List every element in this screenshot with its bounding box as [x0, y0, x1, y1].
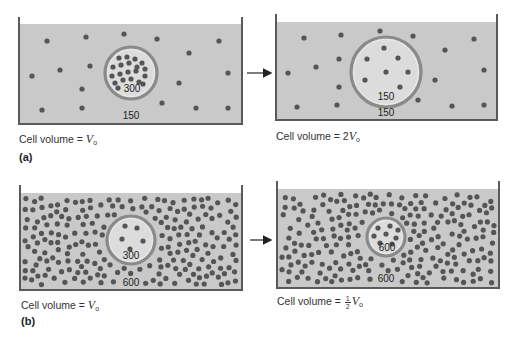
solute-particle [452, 255, 457, 260]
solute-particle [55, 221, 60, 226]
solute-particle [133, 68, 138, 73]
solute-particle [482, 203, 487, 208]
solute-particle [118, 62, 123, 67]
solute-particle [450, 201, 455, 206]
solute-particle [327, 266, 332, 271]
beaker: 600600 [277, 181, 499, 288]
solute-particle [399, 195, 404, 200]
solute-particle [324, 243, 329, 248]
fraction-denominator: 2 [345, 303, 351, 310]
solute-particle [227, 237, 232, 242]
caption-text: Cell volume = [21, 299, 88, 311]
solute-particle [311, 207, 316, 212]
solute-particle [168, 251, 173, 256]
solute-particle [231, 225, 236, 230]
solute-particle [461, 280, 466, 285]
solute-particle [286, 254, 291, 259]
solute-particle [419, 200, 424, 205]
solute-particle [56, 247, 61, 252]
solute-particle [121, 31, 126, 36]
solute-particle [52, 276, 57, 281]
solute-particle [317, 270, 322, 275]
solute-particle [88, 205, 93, 210]
solute-particle [374, 195, 379, 200]
solute-particle [339, 277, 344, 282]
solute-particle [55, 202, 60, 207]
solute-particle [491, 223, 496, 228]
solute-particle [142, 196, 147, 201]
solute-particle [292, 205, 297, 210]
solute-particle [364, 56, 369, 61]
solute-particle [79, 105, 84, 110]
solute-particle [286, 235, 291, 240]
solute-particle [186, 240, 191, 245]
solute-particle [319, 227, 324, 232]
solute-particle [283, 245, 288, 250]
solute-particle [408, 237, 413, 242]
solute-particle [338, 223, 343, 228]
solute-particle [404, 221, 409, 226]
solute-particle [422, 229, 427, 234]
solute-particle [183, 267, 188, 272]
solute-particle [336, 215, 341, 220]
solute-particle [450, 231, 455, 236]
solute-particle [363, 209, 368, 214]
solute-particle [472, 224, 477, 229]
solute-particle [49, 230, 54, 235]
solute-particle [360, 220, 365, 225]
caption-variable: V [352, 294, 359, 308]
solute-particle [313, 195, 318, 200]
solute-particle [151, 278, 156, 283]
solute-particle [435, 220, 440, 225]
solute-particle [175, 209, 180, 214]
solute-particle [119, 236, 124, 241]
solute-particle [194, 281, 199, 286]
solute-particle [143, 281, 148, 286]
solute-particle [189, 226, 194, 231]
solute-particle [154, 36, 159, 41]
solute-particle [39, 205, 44, 210]
solute-particle [438, 258, 443, 263]
solute-particle [92, 229, 97, 234]
outside-concentration-label: 150 [378, 107, 395, 118]
solute-particle [490, 240, 495, 245]
solute-particle [233, 202, 238, 207]
solute-particle [122, 223, 127, 228]
solute-particle [75, 259, 80, 264]
solute-particle [79, 264, 84, 269]
solute-particle [314, 236, 319, 241]
caption-text: Cell volume = [277, 295, 344, 307]
solute-particle [208, 205, 213, 210]
solute-particle [302, 253, 307, 258]
solute-particle [115, 85, 120, 90]
solute-particle [338, 266, 343, 271]
solute-particle [342, 198, 347, 203]
solute-particle [111, 279, 116, 284]
solute-particle [25, 217, 30, 222]
solute-particle [216, 274, 221, 279]
solute-particle [85, 259, 90, 264]
solute-particle [397, 202, 402, 207]
solute-particle [443, 207, 448, 212]
solute-particle [356, 233, 361, 238]
solute-particle [346, 212, 351, 217]
solute-particle [417, 264, 422, 269]
solute-particle [140, 238, 145, 243]
solute-particle [176, 80, 181, 85]
solute-particle [50, 255, 55, 260]
solute-particle [158, 264, 163, 269]
solute-particle [22, 276, 27, 281]
solute-particle [64, 198, 69, 203]
solute-particle [65, 223, 70, 228]
solute-particle [347, 221, 352, 226]
solute-particle [142, 73, 147, 78]
solute-particle [175, 250, 180, 255]
solute-particle [336, 84, 341, 89]
solute-particle [366, 268, 371, 273]
solute-particle [80, 252, 85, 257]
solute-particle [417, 233, 422, 238]
solute-particle [84, 214, 89, 219]
solute-particle [199, 197, 204, 202]
solute-particle [32, 225, 37, 230]
caption-subscript: o [95, 305, 99, 312]
